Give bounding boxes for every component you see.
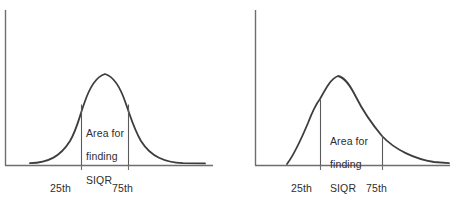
right-area-annotation-line2: finding xyxy=(330,159,376,171)
right-25th-percentile-label-line1: 25th xyxy=(291,183,351,195)
right-75th-percentile-label: 75th percentile xyxy=(366,171,428,198)
right-75th-percentile-label-line1: 75th xyxy=(366,183,428,195)
left-75th-percentile-label-line1: 75th xyxy=(112,183,174,195)
left-area-annotation-line2: finding xyxy=(86,151,132,163)
left-25th-percentile-label-line1: 25th xyxy=(50,183,110,195)
left-25th-percentile-label: 25th percentile xyxy=(50,171,110,198)
left-75th-percentile-label: 75th percentile xyxy=(112,171,174,198)
left-area-annotation-line1: Area for xyxy=(86,128,132,140)
right-25th-percentile-label: 25th percentile xyxy=(291,171,351,198)
distribution-figure: Area for finding SIQR 25th percentile 75… xyxy=(0,0,459,198)
right-area-annotation-line1: Area for xyxy=(330,136,376,148)
figure-canvas xyxy=(0,0,459,198)
